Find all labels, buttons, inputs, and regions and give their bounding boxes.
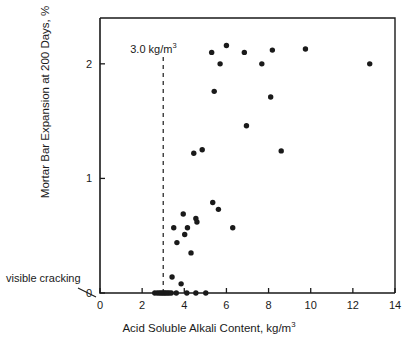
data-point: [174, 240, 179, 245]
data-point: [184, 290, 189, 295]
visible-cracking-label: visible cracking: [6, 272, 81, 284]
data-point: [181, 211, 186, 216]
data-point: [279, 148, 284, 153]
data-point: [212, 89, 217, 94]
data-point: [244, 123, 249, 128]
chart-figure: 02468101214 012 Acid Soluble Alkali Cont…: [0, 0, 418, 344]
x-tick-label-8: 8: [266, 300, 272, 311]
x-tick-label-6: 6: [223, 300, 229, 311]
data-point: [367, 61, 372, 66]
data-point: [303, 46, 308, 51]
plot-frame: [100, 18, 395, 293]
x-tick-label-4: 4: [181, 300, 187, 311]
threshold-label: 3.0 kg/m3: [130, 41, 176, 55]
x-tick-label-10: 10: [305, 300, 317, 311]
y-tick-label-2: 2: [76, 58, 92, 69]
y-axis-title: Mortar Bar Expansion at 200 Days, %: [39, 0, 51, 217]
scatter-plot-canvas: [0, 0, 418, 344]
data-point: [230, 225, 235, 230]
data-point: [194, 219, 199, 224]
data-point: [216, 207, 221, 212]
data-point: [191, 151, 196, 156]
data-point: [209, 50, 214, 55]
data-point: [203, 290, 208, 295]
data-point: [193, 290, 198, 295]
x-tick-label-2: 2: [139, 300, 145, 311]
data-point: [185, 225, 190, 230]
data-point: [178, 281, 183, 286]
data-points: [152, 43, 372, 296]
x-tick-label-0: 0: [97, 300, 103, 311]
data-point: [199, 147, 204, 152]
data-point: [217, 61, 222, 66]
data-point: [188, 250, 193, 255]
data-point: [182, 232, 187, 237]
data-point: [270, 47, 275, 52]
x-axis-title: Acid Soluble Alkali Content, kg/m3: [0, 320, 418, 334]
data-point: [169, 290, 174, 295]
x-tick-label-12: 12: [347, 300, 359, 311]
data-point: [171, 225, 176, 230]
y-tick-label-0: 0: [76, 288, 92, 299]
data-point: [210, 200, 215, 205]
data-point: [224, 43, 229, 48]
y-tick-label-1: 1: [76, 173, 92, 184]
data-point: [169, 274, 174, 279]
x-tick-label-14: 14: [389, 300, 401, 311]
data-point: [259, 61, 264, 66]
data-point: [174, 290, 179, 295]
data-point: [268, 94, 273, 99]
data-point: [242, 50, 247, 55]
